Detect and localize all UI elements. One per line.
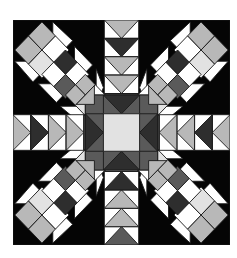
quilt-pattern <box>13 20 230 245</box>
quilt-block: Star quilt block pattern <box>13 20 230 245</box>
center-square <box>103 114 139 152</box>
